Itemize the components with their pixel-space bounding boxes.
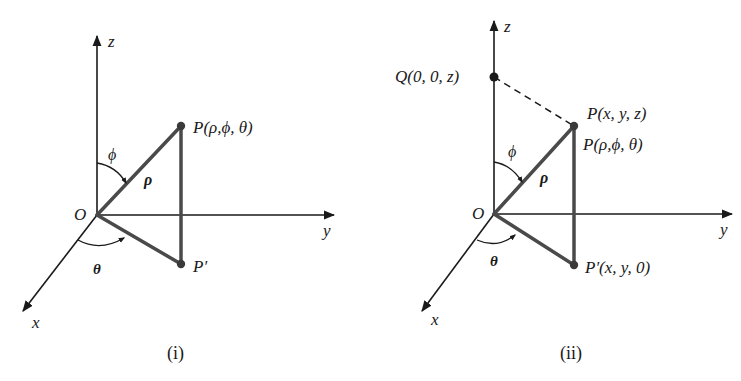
origin-label: O [472,204,484,223]
point-Q-dot [490,73,499,82]
z-axis-label: z [107,32,115,51]
panel-i: z y x O ϕ θ ρ P(ρ,ϕ, θ) P′ (i) [23,32,334,364]
point-Q-label: Q(0, 0, z) [395,67,460,86]
phi-arc [494,162,522,182]
projection-segment [97,215,181,264]
point-P-spherical-label: P(ρ,ϕ, θ) [582,135,643,154]
projection-segment [494,214,574,265]
caption-ii: (ii) [560,343,582,364]
rho-label: ρ [539,169,548,187]
point-P-dot [177,122,185,130]
point-P-label: P(ρ,ϕ, θ) [192,118,253,137]
panel-ii: z y x O ϕ θ ρ Q(0, 0, z) P(x, y, z) P(ρ,… [395,17,732,364]
rho-label: ρ [143,171,152,189]
phi-arc [97,163,126,183]
origin-label: O [74,205,86,224]
q-to-p-dashed [494,77,574,126]
spherical-coordinates-figure: z y x O ϕ θ ρ P(ρ,ϕ, θ) P′ (i) z y x O ϕ [0,0,741,381]
x-axis-label: x [430,310,439,329]
x-axis [422,214,494,311]
point-P-prime-label: P′(x, y, 0) [584,258,650,277]
phi-label: ϕ [108,146,116,164]
theta-arc [78,238,124,246]
y-axis-label: y [718,220,728,239]
phi-label: ϕ [508,143,516,161]
z-axis-label: z [503,17,511,36]
theta-label: θ [490,253,498,269]
point-P-dot [570,122,578,130]
x-axis [23,215,97,311]
theta-arc [477,235,515,244]
point-P-cartesian-label: P(x, y, z) [586,104,647,123]
point-P-prime-label: P′ [192,257,207,276]
point-P-prime-dot [177,260,185,268]
point-P-prime-dot [570,261,578,269]
caption-i: (i) [167,343,184,364]
theta-label: θ [93,261,101,277]
rho-segment [97,126,181,215]
x-axis-label: x [31,313,40,332]
y-axis-label: y [321,221,331,240]
rho-segment [494,126,574,214]
